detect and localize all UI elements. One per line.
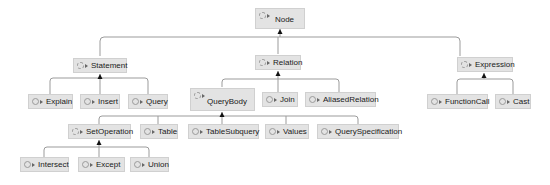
visibility-arrow-icon <box>90 163 93 167</box>
class-icon <box>431 98 442 105</box>
class-icon <box>82 161 93 168</box>
node-intersect[interactable]: Intersect <box>20 157 69 172</box>
node-cast[interactable]: Cast <box>495 94 531 109</box>
node-label: Values <box>283 127 307 136</box>
visibility-arrow-icon <box>329 130 332 134</box>
visibility-arrow-icon <box>40 100 43 104</box>
class-icon <box>259 59 270 66</box>
node-label: AliasedRelation <box>323 95 379 104</box>
class-icon <box>269 128 280 135</box>
visibility-arrow-icon <box>439 100 442 104</box>
class-icon <box>194 92 205 99</box>
node-aliasedrelation[interactable]: AliasedRelation <box>305 92 376 107</box>
visibility-arrow-icon <box>317 98 320 102</box>
node-label: Union <box>148 160 169 169</box>
node-statement[interactable]: Statement <box>73 58 127 73</box>
node-label: Expression <box>475 60 515 69</box>
node-label: QuerySpecification <box>335 127 402 136</box>
node-queryspecification[interactable]: QuerySpecification <box>317 124 399 139</box>
node-label: Cast <box>513 97 529 106</box>
visibility-arrow-icon <box>277 130 280 134</box>
class-icon <box>309 96 320 103</box>
class-icon <box>77 62 88 69</box>
node-union[interactable]: Union <box>130 157 169 172</box>
class-icon <box>192 128 203 135</box>
visibility-arrow-icon <box>200 130 203 134</box>
node-label: Query <box>146 97 168 106</box>
class-icon <box>259 12 270 19</box>
node-node[interactable]: Node <box>255 8 305 29</box>
visibility-arrow-icon <box>142 163 145 167</box>
node-values[interactable]: Values <box>265 124 309 139</box>
node-query[interactable]: Query <box>128 94 168 109</box>
node-querybody[interactable]: QueryBody <box>190 88 255 111</box>
class-icon <box>24 161 35 168</box>
class-icon <box>499 98 510 105</box>
visibility-arrow-icon <box>80 130 83 134</box>
node-relation[interactable]: Relation <box>255 55 301 70</box>
node-label: Join <box>280 95 295 104</box>
visibility-arrow-icon <box>152 130 155 134</box>
class-icon <box>84 98 95 105</box>
node-label: Insert <box>98 97 118 106</box>
node-label: Table <box>158 127 177 136</box>
class-icon <box>134 161 145 168</box>
class-icon <box>321 128 332 135</box>
visibility-arrow-icon <box>267 61 270 65</box>
node-label: FunctionCall <box>445 97 489 106</box>
visibility-arrow-icon <box>92 100 95 104</box>
node-label: Intersect <box>38 160 69 169</box>
node-label: SetOperation <box>86 127 133 136</box>
node-label: Relation <box>273 58 302 67</box>
node-except[interactable]: Except <box>78 157 125 172</box>
node-label: Statement <box>91 61 127 70</box>
node-insert[interactable]: Insert <box>80 94 120 109</box>
node-explain[interactable]: Explain <box>28 94 73 109</box>
class-icon <box>266 96 277 103</box>
node-join[interactable]: Join <box>262 92 298 107</box>
visibility-arrow-icon <box>32 163 35 167</box>
node-table[interactable]: Table <box>140 124 178 139</box>
class-icon <box>72 128 83 135</box>
class-icon <box>132 98 143 105</box>
visibility-arrow-icon <box>140 100 143 104</box>
node-label: Explain <box>46 97 72 106</box>
visibility-arrow-icon <box>507 100 510 104</box>
node-functioncall[interactable]: FunctionCall <box>427 94 488 109</box>
visibility-arrow-icon <box>274 98 277 102</box>
visibility-arrow-icon <box>85 64 88 68</box>
visibility-arrow-icon <box>469 63 472 67</box>
node-expression[interactable]: Expression <box>457 57 513 72</box>
visibility-arrow-icon <box>267 14 270 18</box>
node-label: TableSubquery <box>206 127 259 136</box>
node-tablesubquery[interactable]: TableSubquery <box>188 124 259 139</box>
node-label: Except <box>96 160 120 169</box>
class-icon <box>32 98 43 105</box>
class-icon <box>144 128 155 135</box>
node-setoperation[interactable]: SetOperation <box>68 124 131 139</box>
visibility-arrow-icon <box>202 94 205 98</box>
class-icon <box>461 61 472 68</box>
